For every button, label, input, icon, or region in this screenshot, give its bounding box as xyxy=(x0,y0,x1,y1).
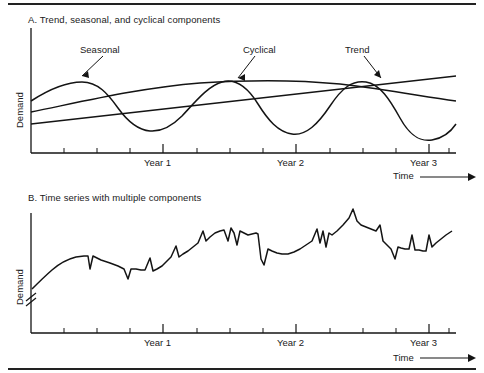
panel-a-annotation-arrows xyxy=(82,56,381,81)
panel-a-time-arrow xyxy=(420,173,476,181)
panel-a-major-ticks xyxy=(163,144,429,153)
annotation-cyclical: Cyclical xyxy=(243,44,276,55)
panel-a-seasonal-line xyxy=(31,81,456,140)
panel-b-tick-label-year2: Year 2 xyxy=(277,337,304,348)
panel-b-series-line xyxy=(32,209,452,289)
annotation-seasonal: Seasonal xyxy=(80,44,120,55)
panel-b-time-arrow xyxy=(420,354,476,362)
panel-a-tick-label-year2: Year 2 xyxy=(277,157,304,168)
annotation-trend: Trend xyxy=(345,44,369,55)
panel-a-tick-label-year3: Year 3 xyxy=(410,157,437,168)
panel-a-x-axis-label: Time xyxy=(393,170,414,181)
panel-a-minor-ticks xyxy=(64,148,449,153)
panel-b-x-axis-label: Time xyxy=(393,352,414,363)
panel-b-minor-ticks xyxy=(64,328,449,333)
panel-a-tick-label-year1: Year 1 xyxy=(144,157,171,168)
panel-b-tick-label-year1: Year 1 xyxy=(144,337,171,348)
panel-b-tick-label-year3: Year 3 xyxy=(410,337,437,348)
figure-container: A. Trend, seasonal, and cyclical compone… xyxy=(0,0,484,373)
panel-b-major-ticks xyxy=(163,324,429,333)
panel-a-trend-line xyxy=(31,76,456,124)
